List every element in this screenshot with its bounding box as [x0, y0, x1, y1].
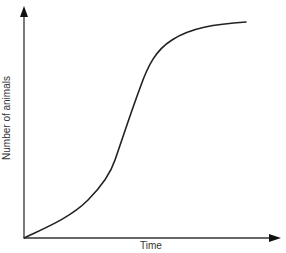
x-axis-label: Time [140, 240, 162, 251]
chart-canvas [0, 0, 286, 253]
growth-curve-line [24, 22, 246, 238]
growth-curve-chart: Number of animals Time [0, 0, 286, 253]
y-axis-arrow-icon [20, 6, 28, 17]
x-axis-arrow-icon [269, 234, 281, 242]
y-axis-label: Number of animals [1, 76, 12, 160]
